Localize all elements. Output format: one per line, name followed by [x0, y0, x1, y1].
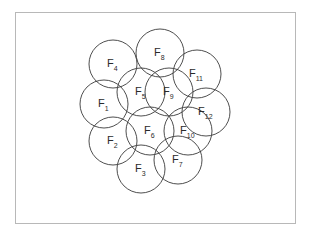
- diagram-frame: [16, 13, 296, 224]
- cell-diagram: F1F2F3F4F5F6F7F8F9F10F11F12: [0, 0, 310, 234]
